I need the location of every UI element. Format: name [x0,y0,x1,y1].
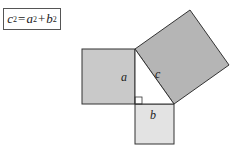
label-c: c [155,67,161,81]
label-b: b [150,108,156,122]
pythagoras-diagram: a c b [0,0,231,150]
square-a [82,49,135,104]
label-a: a [121,70,127,84]
